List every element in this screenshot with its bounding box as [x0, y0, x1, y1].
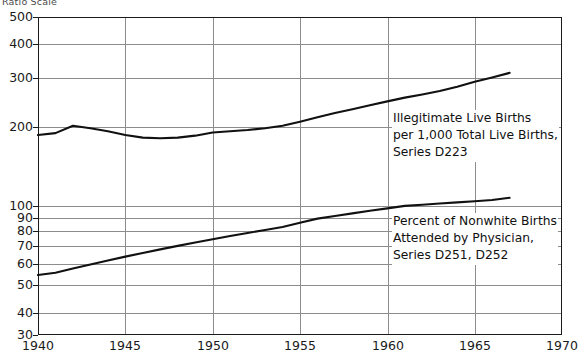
- x-axis-label-1965: 1965: [451, 340, 499, 353]
- y-axis-label-70: 70: [17, 240, 33, 253]
- lower-series-label-line-2: Attended by Physician,: [393, 230, 557, 247]
- lower-series-label-line-3: Series D251, D252: [393, 247, 557, 264]
- chart-figure: Ratio Scale 5004003002001009080706050403…: [0, 0, 584, 357]
- y-axis-label-60: 60: [17, 258, 33, 271]
- x-axis-label-1950: 1950: [189, 340, 237, 353]
- y-axis-label-40: 40: [17, 307, 33, 320]
- y-axis-label-500: 500: [9, 11, 33, 24]
- y-axis-label-300: 300: [9, 72, 33, 85]
- x-axis-label-1945: 1945: [101, 340, 149, 353]
- x-axis-label-1960: 1960: [364, 340, 412, 353]
- y-axis-label-50: 50: [17, 279, 33, 292]
- y-axis-label-200: 200: [9, 121, 33, 134]
- vertical-gridlines: [126, 17, 476, 335]
- y-axis-label-80: 80: [17, 225, 33, 238]
- upper-series-label: Illegitimate Live Birthsper 1,000 Total …: [392, 110, 559, 162]
- x-axis-label-1955: 1955: [276, 340, 324, 353]
- chart-plot-area: [0, 0, 584, 357]
- lower-series-label-line-1: Percent of Nonwhite Births: [393, 213, 557, 230]
- x-axis-label-1940: 1940: [14, 340, 62, 353]
- y-axis-tickmarks: [33, 18, 38, 336]
- upper-series-label-line-3: Series D223: [393, 144, 558, 161]
- upper-series-label-line-1: Illegitimate Live Births: [393, 110, 558, 127]
- y-axis-labels: 50040030020010090807060504030: [0, 0, 33, 357]
- y-axis-label-400: 400: [9, 38, 33, 51]
- upper-series-label-line-2: per 1,000 Total Live Births,: [393, 127, 558, 144]
- x-axis-label-1970: 1970: [538, 340, 584, 353]
- lower-series-label: Percent of Nonwhite BirthsAttended by Ph…: [392, 213, 558, 265]
